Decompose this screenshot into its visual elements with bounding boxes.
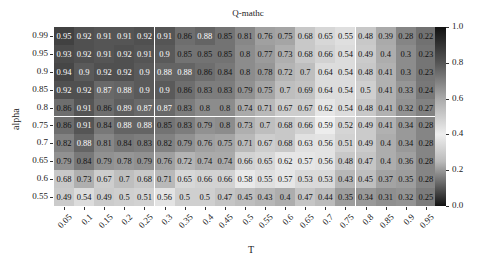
- heatmap-cell: 0.79: [195, 117, 215, 135]
- heatmap-cell: 0.51: [335, 134, 355, 152]
- heatmap-cell: 0.79: [134, 152, 154, 170]
- heatmap-cell: 0.79: [94, 152, 114, 170]
- heatmap-cell: 0.68: [275, 134, 295, 152]
- heatmap-cell: 0.56: [155, 188, 175, 206]
- heatmap-cell: 0.57: [275, 170, 295, 188]
- x-tick: [366, 207, 367, 210]
- heatmap-cell: 0.48: [356, 99, 376, 117]
- heatmap-cell: 0.81: [235, 27, 255, 45]
- x-tick: [305, 207, 306, 210]
- heatmap-cell: 0.71: [235, 134, 255, 152]
- heatmap-cell: 0.86: [195, 63, 215, 81]
- heatmap-cell: 0.75: [275, 27, 295, 45]
- heatmap-cell: 0.91: [94, 45, 114, 63]
- heatmap-cell: 0.88: [155, 63, 175, 81]
- heatmap-cell: 0.92: [74, 45, 94, 63]
- heatmap-cell: 0.53: [295, 170, 315, 188]
- x-tick: [185, 207, 186, 210]
- y-tick-label: 0.85: [8, 84, 48, 94]
- y-tick: [50, 143, 53, 144]
- heatmap-cell: 0.76: [155, 152, 175, 170]
- heatmap-cell: 0.75: [255, 81, 275, 99]
- heatmap-cell: 0.47: [295, 188, 315, 206]
- x-tick: [225, 207, 226, 210]
- x-tick-label: 0.85: [378, 212, 396, 230]
- heatmap-cell: 0.84: [215, 63, 235, 81]
- heatmap-cell: 0.58: [235, 170, 255, 188]
- heatmap-cell: 0.73: [275, 45, 295, 63]
- heatmap-cell: 0.73: [235, 117, 255, 135]
- heatmap-cell: 0.49: [356, 134, 376, 152]
- heatmap-cell: 0.91: [155, 27, 175, 45]
- heatmap-cell: 0.62: [275, 152, 295, 170]
- heatmap-cell: 0.56: [315, 134, 335, 152]
- heatmap-cell: 0.91: [94, 27, 114, 45]
- heatmap-cell: 0.4: [376, 152, 396, 170]
- heatmap-cell: 0.63: [295, 134, 315, 152]
- heatmap-cell: 0.65: [175, 170, 195, 188]
- heatmap-cell: 0.7: [255, 117, 275, 135]
- heatmap-cell: 0.85: [215, 27, 235, 45]
- heatmap-cell: 0.54: [335, 63, 355, 81]
- x-tick-label: 0.9: [401, 212, 416, 227]
- x-tick-label: 0.05: [56, 212, 74, 230]
- heatmap-cell: 0.5: [175, 188, 195, 206]
- x-tick-label: 0.6: [280, 212, 295, 227]
- y-tick: [50, 197, 53, 198]
- x-tick: [64, 207, 65, 210]
- heatmap-cell: 0.68: [54, 170, 74, 188]
- y-tick-label: 0.55: [8, 191, 48, 201]
- x-tick: [325, 207, 326, 210]
- x-tick: [84, 207, 85, 210]
- heatmap-cell: 0.27: [416, 99, 436, 117]
- heatmap-cell: 0.28: [416, 170, 436, 188]
- heatmap-cell: 0.49: [356, 45, 376, 63]
- heatmap-cell: 0.66: [295, 117, 315, 135]
- heatmap-cell: 0.54: [335, 99, 355, 117]
- heatmap-cell: 0.67: [275, 99, 295, 117]
- x-tick-label: 0.35: [177, 212, 195, 230]
- heatmap-cell: 0.39: [376, 27, 396, 45]
- heatmap-cell: 0.9: [155, 81, 175, 99]
- heatmap-cell: 0.85: [195, 45, 215, 63]
- heatmap-cell: 0.87: [155, 99, 175, 117]
- heatmap-cell: 0.54: [74, 188, 94, 206]
- x-tick-label: 0.8: [361, 212, 376, 227]
- heatmap-cell: 0.48: [335, 152, 355, 170]
- x-tick-label: 0.65: [297, 212, 315, 230]
- heatmap-cell: 0.78: [255, 63, 275, 81]
- heatmap-cell: 0.9: [134, 63, 154, 81]
- heatmap-cell: 0.86: [175, 27, 195, 45]
- heatmap-cell: 0.28: [416, 117, 436, 135]
- heatmap-cell: 0.92: [114, 45, 134, 63]
- heatmap-cell: 0.9: [74, 63, 94, 81]
- heatmap-cell: 0.83: [215, 81, 235, 99]
- heatmap-cell: 0.49: [356, 117, 376, 135]
- x-tick: [426, 207, 427, 210]
- heatmap-cell: 0.59: [315, 117, 335, 135]
- heatmap-cell: 0.55: [255, 170, 275, 188]
- y-tick: [50, 108, 53, 109]
- y-tick-label: 0.75: [8, 120, 48, 130]
- heatmap-cell: 0.34: [356, 188, 376, 206]
- heatmap-cell: 0.5: [114, 188, 134, 206]
- heatmap-cell: 0.47: [356, 152, 376, 170]
- x-tick-label: 0.75: [337, 212, 355, 230]
- heatmap-cell: 0.85: [215, 45, 235, 63]
- heatmap-cell: 0.92: [134, 27, 154, 45]
- y-tick: [50, 179, 53, 180]
- x-tick-label: 0.95: [418, 212, 436, 230]
- y-tick: [50, 125, 53, 126]
- heatmap-cell: 0.54: [335, 81, 355, 99]
- heatmap-cell: 0.8: [195, 99, 215, 117]
- heatmap-cell: 0.66: [215, 170, 235, 188]
- y-tick: [50, 36, 53, 37]
- heatmap-cell: 0.4: [275, 188, 295, 206]
- heatmap-cell: 0.41: [376, 63, 396, 81]
- y-tick-label: 0.65: [8, 155, 48, 165]
- x-tick: [205, 207, 206, 210]
- heatmap-cell: 0.87: [94, 81, 114, 99]
- x-tick-label: 0.7: [320, 212, 335, 227]
- heatmap-cell: 0.55: [335, 27, 355, 45]
- x-tick-label: 0.55: [257, 212, 275, 230]
